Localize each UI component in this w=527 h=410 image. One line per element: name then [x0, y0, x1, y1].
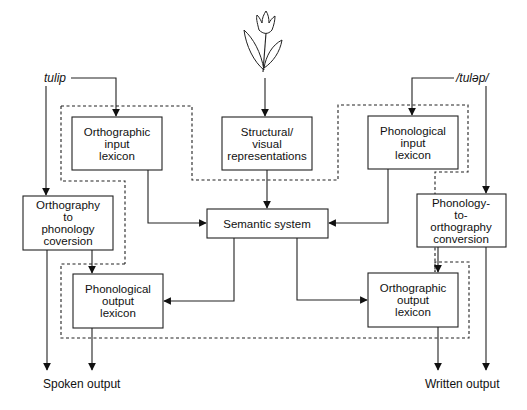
svg-text:lexicon: lexicon	[395, 306, 431, 318]
arrow-semantic-to-orthographic-output	[297, 238, 367, 300]
spoken-output-label: Spoken output	[43, 377, 121, 391]
svg-text:representations: representations	[227, 150, 307, 162]
spoken-word-input-label: /tulǝp/	[455, 71, 490, 85]
orthographic-output-lexicon-box: Orthographic output lexicon	[368, 273, 458, 327]
svg-text:to-: to-	[454, 209, 468, 221]
svg-text:visual: visual	[252, 138, 281, 150]
svg-text:orthography: orthography	[430, 221, 492, 233]
svg-text:Phonological: Phonological	[380, 125, 446, 137]
svg-text:output: output	[102, 295, 135, 307]
svg-text:Phonological: Phonological	[85, 283, 151, 295]
word-processing-diagram: tulip /tulǝp/ Orthographic input lexicon…	[0, 0, 527, 410]
arrow-tulip-to-orthographic-input	[71, 78, 116, 116]
svg-text:lexicon: lexicon	[99, 150, 135, 162]
svg-text:output: output	[397, 294, 430, 306]
orthographic-input-lexicon-box: Orthographic input lexicon	[72, 117, 162, 170]
svg-text:Semantic system: Semantic system	[223, 218, 311, 230]
tulip-picture-icon	[244, 11, 282, 72]
svg-text:Orthographic: Orthographic	[84, 126, 151, 138]
written-output-label: Written output	[425, 377, 500, 391]
written-word-input-label: tulip	[44, 71, 66, 85]
svg-text:input: input	[105, 138, 131, 150]
phonological-output-lexicon-box: Phonological output lexicon	[73, 274, 163, 328]
svg-text:phonology: phonology	[41, 223, 94, 235]
semantic-system-box: Semantic system	[207, 209, 328, 238]
arrow-semantic-to-phonological-output	[164, 238, 234, 301]
svg-text:Orthography: Orthography	[36, 199, 100, 211]
svg-text:input: input	[401, 137, 427, 149]
orthography-to-phonology-conversion-box: Orthography to phonology coversion	[23, 196, 113, 250]
svg-text:lexicon: lexicon	[395, 149, 431, 161]
phonology-to-orthography-conversion-box: Phonology- to- orthography conversion	[417, 194, 506, 247]
structural-visual-representations-box: Structural/ visual representations	[222, 117, 312, 170]
svg-text:conversion: conversion	[433, 233, 489, 245]
svg-text:Structural/: Structural/	[241, 126, 294, 138]
arrow-tulep-to-phonological-input	[412, 78, 454, 115]
arrow-orthographic-input-to-semantic	[148, 170, 206, 223]
phonological-input-lexicon-box: Phonological input lexicon	[368, 116, 458, 169]
svg-text:lexicon: lexicon	[100, 307, 136, 319]
svg-text:coversion: coversion	[43, 235, 92, 247]
svg-text:Phonology-: Phonology-	[432, 197, 490, 209]
svg-text:to: to	[63, 211, 73, 223]
svg-text:Orthographic: Orthographic	[380, 282, 447, 294]
